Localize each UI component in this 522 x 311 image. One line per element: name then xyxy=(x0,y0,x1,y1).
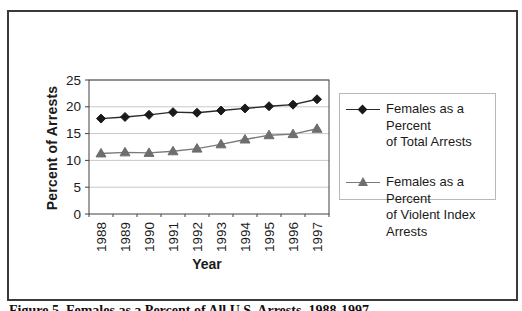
y-tick-label: 15 xyxy=(66,126,81,141)
x-axis-title: Year xyxy=(192,256,222,272)
y-tick-label: 5 xyxy=(73,180,81,195)
y-tick-label: 0 xyxy=(73,207,81,222)
legend-label-line: Arrests xyxy=(386,224,427,239)
triangle-marker-icon xyxy=(358,177,368,186)
legend-key xyxy=(346,101,380,118)
chart-legend: Females as a Percent of Total Arrests Fe… xyxy=(339,93,496,200)
diamond-marker-icon xyxy=(358,105,368,115)
diamond-data-point xyxy=(121,112,130,121)
figure-frame: 0510152025198819891990199119921993199419… xyxy=(7,10,518,301)
x-tick-label: 1995 xyxy=(262,222,277,252)
legend-label-line: Females as a Percent xyxy=(386,101,464,133)
x-tick-label: 1992 xyxy=(190,222,205,252)
legend-item-violent-index-arrests: Females as a Percent of Violent Index Ar… xyxy=(346,174,491,241)
figure-caption: Figure 5. Females as a Percent of All U.… xyxy=(9,303,369,311)
x-tick-label: 1997 xyxy=(310,222,325,252)
diamond-data-point xyxy=(289,100,298,109)
legend-label: Females as a Percent of Violent Index Ar… xyxy=(386,174,491,241)
legend-item-total-arrests: Females as a Percent of Total Arrests xyxy=(346,101,491,151)
x-tick-label: 1990 xyxy=(142,222,157,252)
diamond-data-point xyxy=(145,110,154,119)
y-tick-label: 10 xyxy=(66,153,81,168)
legend-label-line: of Total Arrests xyxy=(386,134,472,149)
diamond-data-point xyxy=(193,108,202,117)
x-tick-label: 1994 xyxy=(238,222,253,253)
x-tick-label: 1988 xyxy=(94,222,109,252)
x-tick-label: 1993 xyxy=(214,222,229,252)
triangle-data-point xyxy=(312,124,322,133)
series-line-0 xyxy=(101,99,317,118)
diamond-data-point xyxy=(241,104,250,113)
diamond-data-point xyxy=(265,102,274,111)
y-axis-title: Percent of Arrests xyxy=(44,86,60,210)
diamond-data-point xyxy=(217,106,226,115)
diamond-data-point xyxy=(97,114,106,123)
diamond-data-point xyxy=(313,95,322,104)
x-tick-label: 1989 xyxy=(118,222,133,252)
legend-key xyxy=(346,174,380,191)
triangle-data-point xyxy=(120,147,130,156)
legend-label: Females as a Percent of Total Arrests xyxy=(386,101,491,151)
x-tick-label: 1996 xyxy=(286,222,301,252)
diamond-data-point xyxy=(169,108,178,117)
series-line-1 xyxy=(101,129,317,154)
legend-label-line: of Violent Index xyxy=(386,207,475,222)
y-tick-label: 20 xyxy=(66,99,81,114)
y-tick-label: 25 xyxy=(66,73,81,88)
x-tick-label: 1991 xyxy=(166,222,181,252)
legend-label-line: Females as a Percent xyxy=(386,174,464,206)
